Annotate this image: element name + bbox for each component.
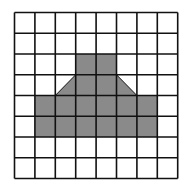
shaded-cell (76, 116, 96, 137)
shaded-cell (137, 116, 157, 137)
shaded-cell (35, 116, 55, 137)
shaded-cell (96, 96, 116, 117)
shaded-cell (117, 116, 137, 137)
shaded-cell (55, 116, 75, 137)
shaded-cell (117, 96, 137, 117)
shaded-cell (137, 96, 157, 117)
shaded-cell (76, 75, 96, 96)
grid-lines (15, 13, 178, 179)
shaded-cell (96, 75, 116, 96)
shaded-cell (35, 96, 55, 117)
shaded-cell (55, 96, 75, 117)
shaded-cell (96, 116, 116, 137)
shaded-cell (76, 96, 96, 117)
grid-figure (0, 0, 184, 189)
shaded-cell (76, 54, 96, 75)
shaded-cell (96, 54, 116, 75)
